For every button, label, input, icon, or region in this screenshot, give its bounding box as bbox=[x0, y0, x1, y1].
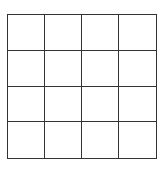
grid-cell-r4-c1 bbox=[8, 122, 45, 158]
grid-cell-r3-c1 bbox=[8, 87, 45, 123]
grid-cell-r3-c2 bbox=[45, 87, 82, 123]
grid-cell-r2-c3 bbox=[82, 51, 119, 87]
grid-cell-r2-c1 bbox=[8, 51, 45, 87]
grid-cell-r4-c4 bbox=[119, 122, 156, 158]
grid-cell-r1-c3 bbox=[82, 15, 119, 51]
grid-cell-r3-c3 bbox=[82, 87, 119, 123]
grid-cell-r4-c3 bbox=[82, 122, 119, 158]
grid-cell-r1-c1 bbox=[8, 15, 45, 51]
grid-cell-r2-c2 bbox=[45, 51, 82, 87]
grid-4x4 bbox=[7, 14, 157, 159]
grid-cell-r2-c4 bbox=[119, 51, 156, 87]
grid-cell-r3-c4 bbox=[119, 87, 156, 123]
grid-cell-r1-c2 bbox=[45, 15, 82, 51]
grid-cell-r4-c2 bbox=[45, 122, 82, 158]
grid-cell-r1-c4 bbox=[119, 15, 156, 51]
